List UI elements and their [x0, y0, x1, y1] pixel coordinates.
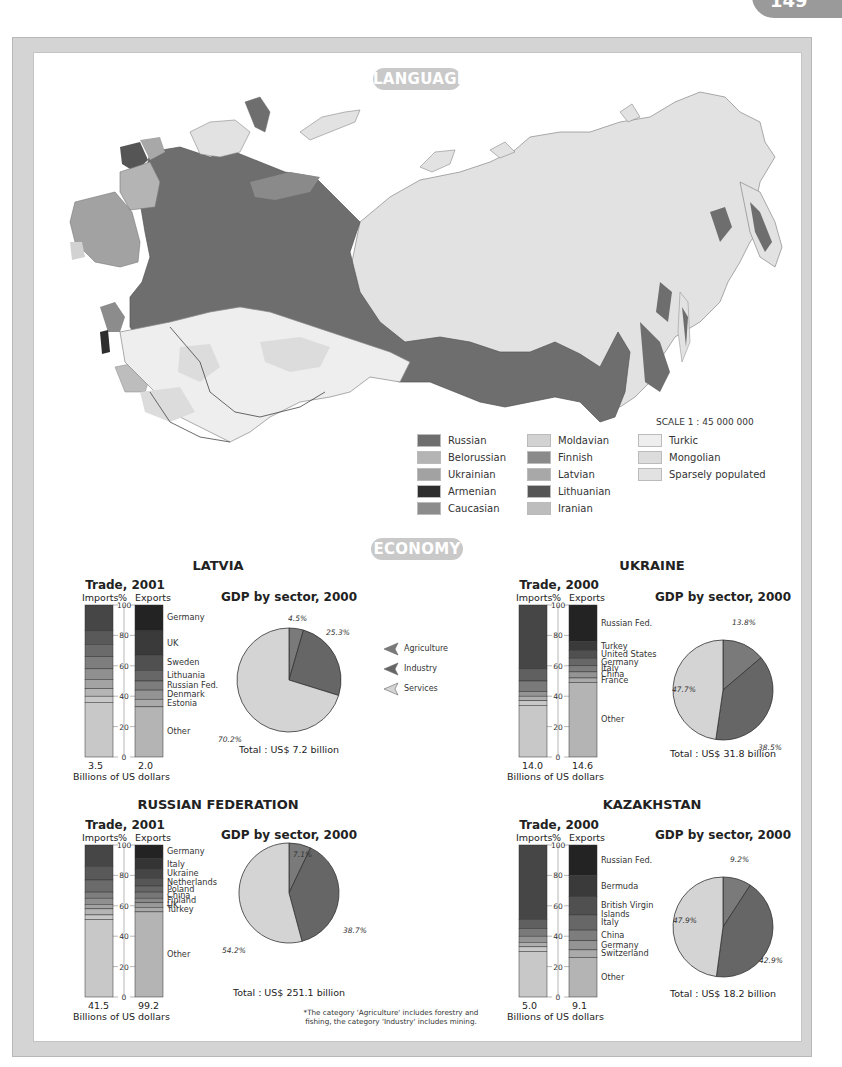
- pie-label-agriculture: 4.5%: [288, 614, 307, 623]
- axis-tick-60: 60: [119, 902, 129, 911]
- map-region-armenian: [100, 330, 110, 354]
- gdp-legend-services: Services: [383, 683, 463, 697]
- bar-segment-poland: [135, 886, 163, 892]
- country-title: UKRAINE: [619, 558, 684, 573]
- total-imports-value: 14.0: [522, 760, 543, 771]
- bar-segment-finland: [85, 657, 113, 669]
- pie-label-agriculture: 9.2%: [730, 855, 749, 864]
- bar-segment-china: [135, 892, 163, 898]
- bar-segment-germany: [135, 605, 163, 631]
- map-scale: SCALE 1 : 45 000 000: [656, 417, 754, 427]
- language-map: [60, 92, 800, 472]
- gdp-total: Total : US$ 7.2 billion: [239, 744, 339, 755]
- trade-title: Trade, 2000: [519, 578, 599, 592]
- bar-segment-china: [85, 904, 113, 909]
- axis-tick-80: 80: [553, 871, 563, 880]
- bar-segment-turkey: [569, 641, 597, 650]
- segment-label-bermuda: Bermuda: [601, 882, 638, 891]
- pie-label-services: 47.9%: [673, 916, 697, 925]
- axis-tick-80: 80: [553, 631, 563, 640]
- industry-wedge-icon: [383, 663, 399, 675]
- bar-segment-ukraine: [85, 866, 113, 880]
- exports-header: Exports: [135, 832, 171, 843]
- pie-label-industry: 38.7%: [343, 926, 367, 935]
- bar-segment-sweden: [135, 655, 163, 670]
- legend-swatch: [638, 451, 662, 464]
- bar-segment-france: [519, 696, 547, 701]
- total-imports-value: 3.5: [88, 760, 103, 771]
- axis-tick-40: 40: [119, 932, 129, 941]
- segment-label-other: Other: [167, 727, 190, 736]
- legend-label: Moldavian: [558, 434, 609, 447]
- bar-segment-turkmenistan: [519, 681, 547, 692]
- bar-segment-uk: [135, 903, 163, 908]
- bar-segment-finland: [85, 915, 113, 920]
- gdp-total: Total : US$ 251.1 billion: [233, 987, 345, 998]
- gdp-title: GDP by sector, 2000: [655, 590, 791, 604]
- legend-item-lithuanian: Lithuanian: [527, 485, 727, 499]
- segment-label-france: France: [601, 676, 628, 685]
- services-wedge-icon: [383, 683, 399, 695]
- gdp-title: GDP by sector, 2000: [655, 828, 791, 842]
- exports-header: Exports: [569, 592, 605, 603]
- segment-label-sweden: Sweden: [167, 658, 199, 667]
- legend-label: Armenian: [448, 485, 496, 498]
- legend-label: Finnish: [558, 451, 593, 464]
- segment-label-other: Other: [167, 950, 190, 959]
- bar-segment-italy: [85, 696, 113, 702]
- axis-tick-60: 60: [553, 662, 563, 671]
- legend-swatch: [417, 502, 441, 515]
- segment-label-switzerland: Switzerland: [601, 949, 649, 958]
- segment-label-russian-fed: Russian Fed.: [601, 619, 652, 628]
- bar-segment-switzerland: [569, 950, 597, 958]
- bar-segment-germany: [519, 919, 547, 928]
- bar-segment-united-states: [569, 651, 597, 659]
- bar-segment-italy: [519, 942, 547, 947]
- gdp-legend-agriculture: Agriculture: [383, 643, 463, 657]
- legend-label: Latvian: [558, 468, 595, 481]
- total-imports-value: 5.0: [522, 1000, 537, 1011]
- bar-segment-italy: [135, 859, 163, 870]
- bar-segment-other: [135, 912, 163, 997]
- legend-swatch: [527, 434, 551, 447]
- gdp-legend-label: Industry: [404, 664, 437, 673]
- legend-label: Mongolian: [669, 451, 721, 464]
- bar-segment-estonia: [135, 699, 163, 707]
- bar-segment-other: [85, 919, 113, 997]
- axis-tick-20: 20: [119, 963, 129, 972]
- bar-segment-italy: [85, 898, 113, 904]
- bar-segment-russian-fed: [135, 681, 163, 690]
- axis-tick-20: 20: [553, 723, 563, 732]
- total-exports-value: 2.0: [138, 760, 153, 771]
- agriculture-wedge-icon: [383, 643, 399, 655]
- bar-segment-uk: [135, 631, 163, 655]
- bar-segment-russian-fed: [85, 631, 113, 645]
- legend-label: Sparsely populated: [669, 468, 766, 481]
- bar-segment-british-virgin-islands: [569, 897, 597, 915]
- bar-segment-sweden: [85, 669, 113, 680]
- axis-tick-80: 80: [119, 871, 129, 880]
- axis-tick-60: 60: [553, 902, 563, 911]
- bar-segment-germany: [569, 941, 597, 950]
- bar-segment-denmark: [135, 690, 163, 699]
- pie-label-agriculture: 13.8%: [732, 618, 756, 627]
- legend-item-sparsely-populated: Sparsely populated: [638, 468, 838, 482]
- page-number: 149: [770, 0, 808, 11]
- segment-label-italy: Italy: [167, 860, 185, 869]
- bar-segment-poland: [85, 689, 113, 697]
- legend-swatch: [417, 434, 441, 447]
- bar-segment-belarus: [519, 692, 547, 697]
- bar-segment-france: [85, 909, 113, 915]
- bar-segment-kazakhstan: [85, 892, 113, 898]
- segment-label-germany: Germany: [167, 847, 205, 856]
- axis-tick-0: 0: [119, 993, 129, 1002]
- legend-label: Lithuanian: [558, 485, 611, 498]
- bar-segment-ukraine: [135, 869, 163, 878]
- segment-label-lithuania: Lithuania: [167, 671, 205, 680]
- legend-swatch: [417, 485, 441, 498]
- segment-label-germany: Germany: [167, 613, 205, 622]
- gdp-total: Total : US$ 18.2 billion: [670, 988, 776, 999]
- legend-swatch: [527, 485, 551, 498]
- legend-label: Turkic: [669, 434, 698, 447]
- bar-segment-italy: [569, 666, 597, 672]
